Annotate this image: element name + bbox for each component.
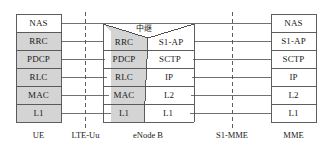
enodeb-layer-rrc: RRC: [104, 34, 144, 50]
mme-layer-l2: L2: [271, 86, 316, 104]
mme-layer-s1ap: S1-AP: [271, 32, 316, 50]
relay-annotation-label: 中继: [136, 25, 152, 33]
mme-layer-nas: NAS: [271, 14, 316, 32]
enodeb-layer-mac: MAC: [104, 86, 144, 104]
protocol-stack-diagram: NAS RRC PDCP RLC MAC L1 RRC PDCP RLC MAC…: [0, 0, 332, 154]
enodeb-layer-l2: L2: [146, 86, 192, 104]
ue-layer-rrc: RRC: [16, 32, 61, 50]
enodeb-layer-l1-s1: L1: [145, 104, 191, 122]
enodeb-layer-s1ap: S1-AP: [148, 34, 194, 50]
ue-layer-pdcp: PDCP: [16, 50, 61, 68]
enodeb-layer-ip: IP: [146, 68, 192, 86]
ue-layer-rlc: RLC: [16, 68, 61, 86]
interface-label-s1-mme: S1-MME: [205, 131, 259, 140]
enodeb-layer-sctp: SCTP: [147, 50, 193, 68]
node-label-enodeb: eNode B: [117, 131, 179, 140]
node-label-ue: UE: [16, 131, 61, 140]
mme-layer-sctp: SCTP: [271, 50, 316, 68]
enodeb-layer-rlc: RLC: [104, 68, 144, 86]
ue-layer-nas: NAS: [16, 14, 61, 32]
ue-layer-mac: MAC: [16, 86, 61, 104]
interface-label-lte-uu: LTE-Uu: [62, 131, 109, 140]
ue-layer-l1: L1: [16, 104, 61, 122]
mme-layer-l1: L1: [271, 104, 316, 122]
mme-layer-ip: IP: [271, 68, 316, 86]
enodeb-layer-l1: L1: [104, 104, 144, 122]
node-label-mme: MME: [271, 131, 316, 140]
enodeb-layer-pdcp: PDCP: [104, 50, 144, 68]
